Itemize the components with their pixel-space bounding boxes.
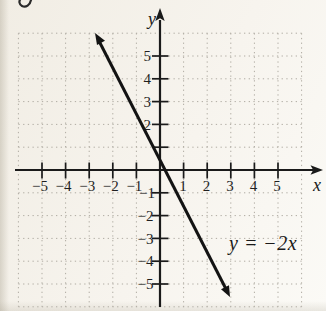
graph-canvas: −5 −4 −3 −2 −1 1 2 3 4 5 5 4 3 2 −1 −2 −… bbox=[0, 0, 326, 311]
x-tick-label: 4 bbox=[250, 178, 258, 194]
x-tick-label: −2 bbox=[103, 178, 119, 194]
y-tick-label: 5 bbox=[144, 48, 152, 64]
stray-ink-fragment bbox=[19, 0, 31, 7]
x-tick-label: 2 bbox=[203, 178, 211, 194]
textbook-graph-figure: −5 −4 −3 −2 −1 1 2 3 4 5 5 4 3 2 −1 −2 −… bbox=[0, 0, 326, 311]
x-tick-label: −5 bbox=[32, 178, 48, 194]
x-tick-label: 1 bbox=[179, 178, 187, 194]
y-tick-label: −5 bbox=[138, 276, 154, 292]
x-tick-label: −3 bbox=[79, 178, 95, 194]
y-tick-label: −1 bbox=[139, 185, 155, 201]
y-tick-label: 4 bbox=[144, 71, 152, 87]
x-axis-label: x bbox=[312, 175, 321, 195]
function-line bbox=[95, 33, 230, 297]
equation-label: y = −2x bbox=[227, 232, 297, 255]
y-tick-label: −4 bbox=[138, 253, 154, 269]
y-axis-label: y bbox=[146, 9, 156, 29]
x-tick-label: −4 bbox=[56, 178, 72, 194]
line-arrow-down-icon bbox=[221, 285, 230, 297]
x-tick-label: 3 bbox=[226, 178, 234, 194]
x-tick-labels: −5 −4 −3 −2 −1 1 2 3 4 5 bbox=[32, 178, 281, 194]
x-tick-label: 5 bbox=[273, 178, 281, 194]
y-tick-label: −3 bbox=[138, 231, 154, 247]
axes bbox=[15, 8, 323, 307]
y-axis-arrow-icon bbox=[155, 8, 164, 21]
line-arrow-up-icon bbox=[95, 33, 105, 45]
y-tick-label: 3 bbox=[144, 94, 152, 110]
y-tick-label: −2 bbox=[138, 208, 154, 224]
